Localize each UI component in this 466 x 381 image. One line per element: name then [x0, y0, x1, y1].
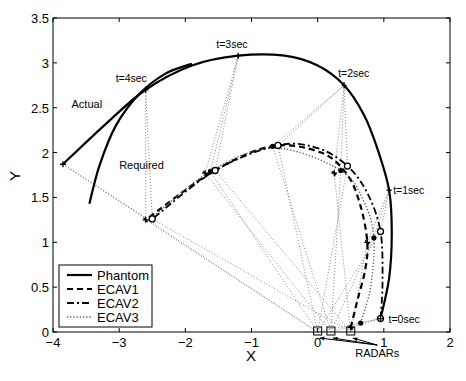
ecav-marker: [212, 168, 218, 174]
x-axis-label: X: [246, 347, 256, 364]
y-tick-label: 3: [42, 56, 49, 71]
series-ecav2: [152, 144, 382, 319]
ecav-marker: [378, 229, 384, 235]
y-axis-label: Y: [6, 171, 23, 181]
time-label: t=1sec: [393, 184, 424, 196]
series-required: [89, 64, 192, 204]
phantom-time-marker: [236, 53, 241, 59]
ecav-marker: [371, 235, 376, 240]
y-tick-label: 2: [42, 146, 49, 161]
x-tick-label: 0: [314, 335, 321, 350]
annotation-actual: Actual: [72, 98, 103, 110]
y-tick-label: 1.5: [31, 190, 49, 205]
x-tick-label: 2: [446, 335, 453, 350]
y-tick-label: 2.5: [31, 101, 49, 116]
y-tick-label: 0: [42, 325, 49, 340]
ecav-marker: [358, 320, 363, 325]
legend-label: ECAV1: [97, 282, 139, 297]
time-label: t=4sec: [116, 72, 147, 84]
ecav-marker: [331, 170, 337, 176]
ecav-marker: [275, 142, 281, 148]
ecav-marker: [344, 163, 350, 169]
annotation-radars: RADARs: [355, 347, 400, 359]
ecav-marker: [270, 144, 275, 149]
legend-label: ECAV2: [97, 296, 139, 311]
legend-label: Phantom: [97, 268, 149, 283]
trajectory-chart: −4−3−2−101200.511.522.533.5 t=0sect=1sec…: [0, 0, 466, 381]
ecav-marker: [208, 169, 213, 174]
ecav-marker: [149, 216, 155, 222]
ecav-marker: [364, 239, 370, 245]
arrow-icon: [353, 337, 358, 341]
x-tick-label: −2: [178, 335, 193, 350]
y-tick-label: 1: [42, 235, 49, 250]
time-label: t=3sec: [216, 38, 247, 50]
time-label: t=0sec: [389, 313, 420, 325]
legend-label: ECAV3: [97, 310, 139, 325]
time-label: t=2sec: [338, 67, 369, 79]
x-tick-label: −3: [112, 335, 127, 350]
y-tick-label: 0.5: [31, 280, 49, 295]
ecav-marker: [338, 168, 343, 173]
annotation-required: Required: [119, 159, 164, 171]
phantom-time-marker: [387, 187, 392, 193]
y-tick-label: 3.5: [31, 11, 49, 26]
legend: PhantomECAV1ECAV2ECAV3: [59, 265, 152, 327]
